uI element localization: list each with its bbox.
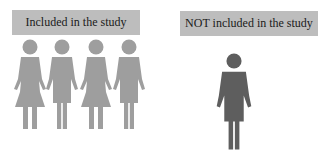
person-icon bbox=[217, 53, 252, 149]
person-icon bbox=[113, 40, 145, 130]
included-figures bbox=[14, 40, 145, 130]
people-diagram bbox=[0, 0, 328, 156]
person-icon bbox=[80, 40, 112, 130]
person-icon bbox=[14, 40, 46, 130]
not-included-figures bbox=[217, 53, 252, 149]
person-icon bbox=[46, 40, 78, 130]
